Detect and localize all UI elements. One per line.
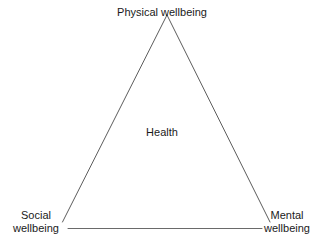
vertex-label-physical-wellbeing-line-1: Physical wellbeing [0, 6, 324, 19]
center-label-health: Health [0, 126, 324, 139]
vertex-label-social-wellbeing-line-1: Social [0, 209, 72, 222]
center-label-health-text: Health [0, 126, 324, 139]
vertex-label-mental-wellbeing: Mental wellbeing [251, 209, 323, 235]
vertex-label-physical-wellbeing: Physical wellbeing [0, 6, 324, 19]
vertex-label-mental-wellbeing-line-1: Mental [251, 209, 323, 222]
vertex-label-social-wellbeing-line-2: wellbeing [0, 222, 72, 235]
vertex-label-social-wellbeing: Social wellbeing [0, 209, 72, 235]
vertex-label-mental-wellbeing-line-2: wellbeing [251, 222, 323, 235]
